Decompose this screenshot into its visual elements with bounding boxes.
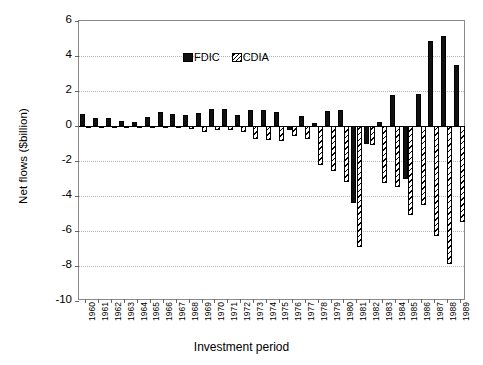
bar-cdia-1988 xyxy=(447,126,452,264)
bar-cdia-1966 xyxy=(163,126,168,128)
y-tick-label: -4 xyxy=(42,189,72,201)
bar-fdic-1979 xyxy=(325,111,330,126)
bar-group xyxy=(105,21,118,299)
x-tick-label: 1982 xyxy=(372,302,381,342)
bar-group xyxy=(169,21,182,299)
bar-fdic-1976 xyxy=(287,126,292,130)
bar-fdic-1969 xyxy=(196,113,201,126)
y-tick-label: -2 xyxy=(42,154,72,166)
x-tick-label: 1969 xyxy=(204,302,213,342)
y-axis-tick-labels: 6420-2-4-6-8-10 xyxy=(38,0,72,365)
y-tick-label: 2 xyxy=(42,84,72,96)
x-tick-label: 1971 xyxy=(230,302,239,342)
x-tick-label: 1960 xyxy=(88,302,97,342)
bar-fdic-1974 xyxy=(261,110,266,126)
x-tick-label: 1968 xyxy=(191,302,200,342)
bar-fdic-1988 xyxy=(441,36,446,126)
bar-group xyxy=(131,21,144,299)
x-tick-label: 1972 xyxy=(243,302,252,342)
chart-figure: Net flows ($billion) 6420-2-4-6-8-10 FDI… xyxy=(0,0,483,365)
bar-cdia-1987 xyxy=(434,126,439,236)
bar-cdia-1970 xyxy=(215,126,220,130)
bar-cdia-1971 xyxy=(228,126,233,130)
bar-fdic-1977 xyxy=(299,116,304,126)
x-tick-label: 1967 xyxy=(178,302,187,342)
x-tick-label: 1964 xyxy=(140,302,149,342)
y-tick-label: -10 xyxy=(42,294,72,306)
x-tick-label: 1974 xyxy=(269,302,278,342)
y-tick-label: 0 xyxy=(42,119,72,131)
plot-area: FDIC CDIA xyxy=(78,20,465,300)
bar-cdia-1982 xyxy=(370,126,375,145)
bar-fdic-1984 xyxy=(390,95,395,126)
x-tick-label: 1981 xyxy=(359,302,368,342)
bar-group xyxy=(79,21,92,299)
bar-fdic-1970 xyxy=(209,109,214,126)
bar-group xyxy=(376,21,389,299)
bar-cdia-1964 xyxy=(137,126,142,128)
x-tick-label: 1970 xyxy=(217,302,226,342)
bar-group xyxy=(453,21,466,299)
bar-group xyxy=(324,21,337,299)
bar-cdia-1980 xyxy=(344,126,349,182)
hatched-square-icon xyxy=(232,53,242,62)
bar-fdic-1986 xyxy=(416,94,421,126)
bar-fdic-1962 xyxy=(106,118,111,126)
bar-group xyxy=(273,21,286,299)
x-tick-label: 1976 xyxy=(294,302,303,342)
bar-cdia-1967 xyxy=(176,126,181,128)
x-tick-label: 1984 xyxy=(398,302,407,342)
x-axis-title: Investment period xyxy=(0,340,483,354)
y-tick-label: 6 xyxy=(42,14,72,26)
bar-cdia-1983 xyxy=(382,126,387,183)
bar-fdic-1980 xyxy=(338,110,343,126)
bar-group xyxy=(144,21,157,299)
bar-cdia-1981 xyxy=(357,126,362,247)
y-axis-title: Net flows ($billion) xyxy=(17,71,29,241)
bar-group xyxy=(118,21,131,299)
bar-group xyxy=(350,21,363,299)
x-tick-label: 1989 xyxy=(462,302,471,342)
legend-label-fdic: FDIC xyxy=(194,51,220,63)
x-tick-label: 1985 xyxy=(410,302,419,342)
bar-fdic-1981 xyxy=(351,126,356,203)
bar-cdia-1960 xyxy=(86,126,91,128)
bar-cdia-1986 xyxy=(421,126,426,205)
bar-cdia-1984 xyxy=(395,126,400,187)
bar-group xyxy=(337,21,350,299)
x-tick-label: 1983 xyxy=(385,302,394,342)
bar-fdic-1983 xyxy=(377,122,382,126)
bar-cdia-1972 xyxy=(241,126,246,132)
bar-cdia-1974 xyxy=(266,126,271,140)
bar-cdia-1979 xyxy=(331,126,336,171)
bar-fdic-1987 xyxy=(428,41,433,126)
bar-cdia-1963 xyxy=(124,126,129,128)
bar-fdic-1965 xyxy=(145,117,150,126)
bar-group xyxy=(402,21,415,299)
bar-cdia-1977 xyxy=(305,126,310,139)
bar-cdia-1969 xyxy=(202,126,207,132)
bar-fdic-1989 xyxy=(454,65,459,126)
bar-fdic-1963 xyxy=(119,121,124,126)
bar-fdic-1964 xyxy=(132,122,137,126)
bar-cdia-1968 xyxy=(189,126,194,129)
x-tick-label: 1979 xyxy=(333,302,342,342)
bar-cdia-1976 xyxy=(292,126,297,136)
bar-group xyxy=(363,21,376,299)
y-tick-label: 4 xyxy=(42,49,72,61)
x-tick-label: 1965 xyxy=(152,302,161,342)
bar-group xyxy=(92,21,105,299)
bar-cdia-1985 xyxy=(408,126,413,215)
bar-fdic-1968 xyxy=(183,115,188,126)
bar-fdic-1971 xyxy=(222,109,227,126)
bar-fdic-1972 xyxy=(235,115,240,126)
x-tick-label: 1980 xyxy=(346,302,355,342)
x-tick-label: 1973 xyxy=(256,302,265,342)
x-tick-label: 1963 xyxy=(127,302,136,342)
chart-legend: FDIC CDIA xyxy=(183,51,269,63)
bar-cdia-1962 xyxy=(112,126,117,128)
bar-series-container xyxy=(79,21,464,299)
legend-entry-fdic: FDIC xyxy=(183,51,220,63)
bar-cdia-1978 xyxy=(318,126,323,165)
x-tick-label: 1977 xyxy=(307,302,316,342)
